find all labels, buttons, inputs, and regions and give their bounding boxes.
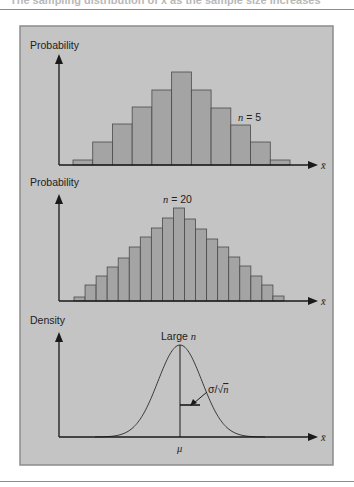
histogram-bar <box>129 247 140 301</box>
annotation-n20: n = 20 <box>163 193 192 205</box>
bottom-divider <box>0 481 354 482</box>
x-axis-label-xbar-3: x̄ <box>320 432 326 443</box>
histogram-bar <box>218 247 229 301</box>
histogram-bar <box>251 276 262 301</box>
histogram-bar <box>231 125 251 165</box>
histogram-bar <box>140 237 151 301</box>
histogram-bar <box>196 229 207 301</box>
histogram-bar <box>173 208 184 301</box>
histogram-bar <box>251 142 271 165</box>
y-axis-label-probability-1: Probability <box>30 39 80 51</box>
x-axis-label-xbar-1: x̄ <box>320 160 326 171</box>
histogram-bar <box>211 108 231 165</box>
histogram-bar <box>152 90 172 165</box>
histogram-bar <box>172 72 192 165</box>
y-axis-label-density: Density <box>30 314 66 326</box>
histogram-bar <box>207 239 218 301</box>
y-axis-label-probability-2: Probability <box>30 176 80 188</box>
histogram-bar <box>93 142 113 165</box>
histogram-bar <box>112 124 132 165</box>
histogram-bar <box>229 257 240 301</box>
histogram-bar <box>191 90 211 165</box>
mean-label-mu: μ <box>176 443 182 454</box>
figure: Probability x̄ n = 5 Probability x̄ n = … <box>0 0 354 487</box>
histogram-bar <box>107 267 118 301</box>
histogram-bar <box>273 296 284 301</box>
histogram-bar <box>151 228 162 301</box>
histogram-bar <box>262 285 273 301</box>
histogram-bar <box>73 160 93 165</box>
histogram-bar <box>96 276 107 301</box>
x-axis-label-xbar-2: x̄ <box>320 296 326 307</box>
histogram-bar <box>132 107 152 165</box>
histogram-bar <box>85 285 96 301</box>
histogram-bar <box>162 218 173 301</box>
annotation-n5: n = 5 <box>238 111 261 123</box>
histogram-bar <box>240 266 251 301</box>
std-error-label: σ/√n <box>208 383 228 395</box>
annotation-large-n: Large n <box>161 330 196 342</box>
histogram-bar <box>270 160 290 165</box>
histogram-bar <box>118 258 129 301</box>
histogram-bar <box>185 219 196 301</box>
